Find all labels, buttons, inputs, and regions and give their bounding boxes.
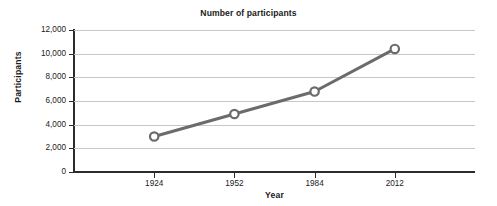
x-axis-tick — [234, 173, 235, 178]
y-axis-tick-label: 12,000 — [24, 26, 66, 34]
x-axis-tick — [154, 173, 155, 178]
y-axis-tick-label: 10,000 — [24, 50, 66, 58]
chart-figure: Number of participants Participants Year… — [0, 0, 497, 206]
y-axis-title: Participants — [13, 37, 23, 117]
series-line — [154, 49, 395, 137]
data-series-participants — [74, 30, 475, 172]
plot-area — [74, 30, 475, 172]
x-axis-tick — [395, 173, 396, 178]
y-axis-tick-label: 6,000 — [24, 97, 66, 105]
data-point-marker — [150, 132, 158, 140]
y-axis-tick-label: 8,000 — [24, 73, 66, 81]
x-axis-tick-label: 2012 — [365, 180, 425, 188]
y-axis-tick-label: 2,000 — [24, 144, 66, 152]
data-point-marker — [230, 110, 238, 118]
y-axis-tick-label: 0 — [24, 168, 66, 176]
data-point-marker — [391, 45, 399, 53]
y-axis-tick-label: 4,000 — [24, 121, 66, 129]
x-axis-title: Year — [74, 190, 475, 200]
chart-title: Number of participants — [0, 8, 497, 18]
x-axis-tick-label: 1952 — [204, 180, 264, 188]
x-axis-tick — [315, 173, 316, 178]
data-point-marker — [310, 87, 318, 95]
x-axis-tick-label: 1924 — [124, 180, 184, 188]
y-axis-tick — [69, 172, 74, 173]
x-axis-tick-label: 1984 — [285, 180, 345, 188]
